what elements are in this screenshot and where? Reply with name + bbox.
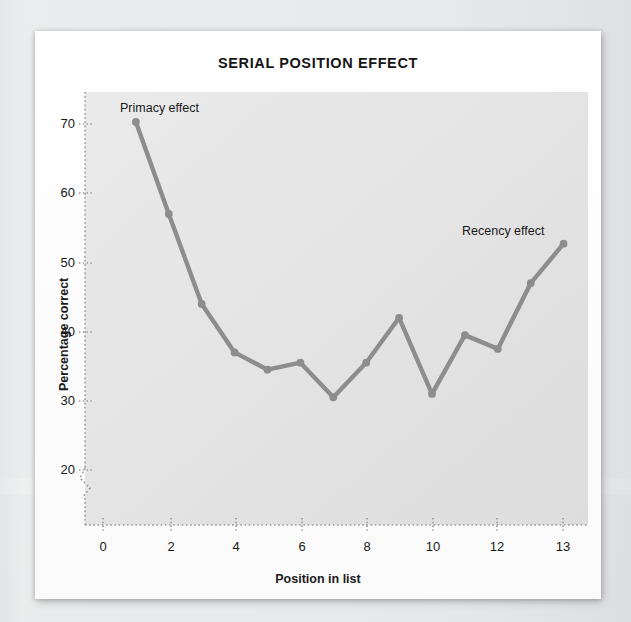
figure-page: SERIAL POSITION EFFECT <box>35 31 601 599</box>
data-point <box>297 359 305 367</box>
data-point <box>395 314 403 322</box>
x-tick-13: 13 <box>543 539 583 554</box>
data-point <box>132 118 140 126</box>
data-point <box>198 300 206 308</box>
annotation-primacy-effect: Primacy effect <box>120 101 199 115</box>
x-tick-8: 8 <box>347 539 387 554</box>
data-point <box>231 349 239 357</box>
data-point <box>428 390 436 398</box>
x-tick-0: 0 <box>83 539 123 554</box>
data-point <box>362 359 370 367</box>
y-tick-70: 70 <box>35 116 75 131</box>
x-tick-4: 4 <box>216 539 256 554</box>
data-point <box>560 240 568 248</box>
chart-canvas <box>35 31 601 599</box>
y-tick-30: 30 <box>35 393 75 408</box>
x-tick-6: 6 <box>282 539 322 554</box>
data-point <box>527 279 535 287</box>
data-point <box>165 210 173 218</box>
data-point <box>494 345 502 353</box>
data-point <box>329 393 337 401</box>
y-axis-ticks <box>79 124 92 470</box>
data-line <box>136 122 564 397</box>
x-axis-label: Position in list <box>35 572 601 586</box>
y-axis-line <box>80 92 90 525</box>
y-tick-50: 50 <box>35 255 75 270</box>
data-markers <box>132 118 567 401</box>
y-tick-40: 40 <box>35 324 75 339</box>
y-tick-60: 60 <box>35 185 75 200</box>
data-point <box>461 331 469 339</box>
y-tick-20: 20 <box>35 462 75 477</box>
x-tick-10: 10 <box>413 539 453 554</box>
annotation-recency-effect: Recency effect <box>462 224 544 238</box>
x-tick-12: 12 <box>477 539 517 554</box>
data-point <box>264 366 272 374</box>
x-tick-2: 2 <box>151 539 191 554</box>
